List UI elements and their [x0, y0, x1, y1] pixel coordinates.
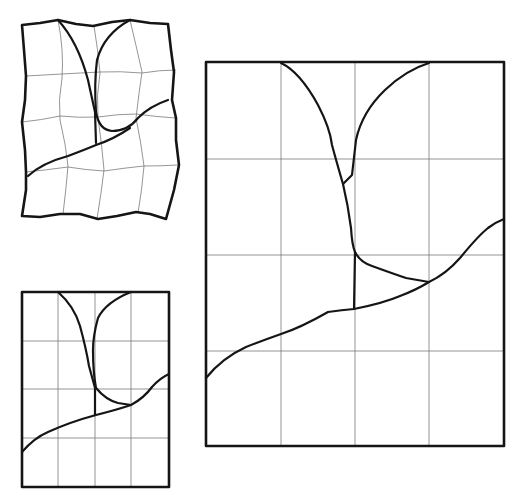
figure-canvas: [0, 0, 519, 503]
small-grid-panel: [22, 292, 169, 487]
small-tree-drawing: [22, 292, 169, 452]
distorted-grid-panel: [22, 20, 179, 219]
large-grid-panel: [206, 62, 504, 446]
distorted-tree-drawing: [28, 20, 168, 176]
